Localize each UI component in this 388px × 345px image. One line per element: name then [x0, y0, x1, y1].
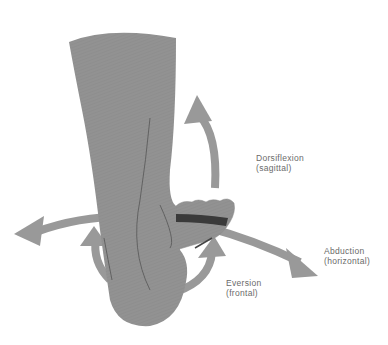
dorsiflexion-title: Dorsiflexion: [256, 153, 304, 163]
eversion-title: Eversion: [226, 278, 261, 288]
dorsiflexion-arrow: [184, 95, 215, 188]
foot-motion-diagram: [0, 0, 388, 345]
eversion-label: Eversion (frontal): [226, 278, 261, 298]
dorsiflexion-label: Dorsiflexion (sagittal): [256, 153, 304, 173]
abduction-title: Abduction: [324, 246, 370, 256]
eversion-plane: (frontal): [226, 288, 261, 298]
foot-shape: [69, 33, 235, 326]
abduction-label: Abduction (horizontal): [324, 246, 370, 266]
dorsiflexion-plane: (sagittal): [256, 163, 304, 173]
abduction-plane: (horizontal): [324, 256, 370, 266]
